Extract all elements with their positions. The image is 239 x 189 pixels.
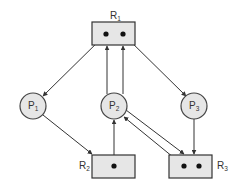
process-p3: P3 — [181, 93, 207, 119]
resource-r1: R1 — [92, 10, 135, 45]
resource-r3-instance-2 — [196, 163, 201, 168]
edge-p1-to-r2 — [43, 115, 92, 154]
resource-r3-label: R3 — [217, 160, 228, 172]
process-p1: P1 — [20, 93, 46, 119]
resource-r1-instance-1 — [103, 31, 108, 36]
resource-r1-instance-2 — [120, 31, 125, 36]
process-p2: P2 — [101, 93, 127, 119]
resource-r2: R2 — [79, 155, 135, 178]
resource-r1-label: R1 — [110, 10, 121, 22]
resource-r3: R3 — [169, 155, 228, 178]
edge-p2-to-r3 — [126, 110, 184, 154]
resource-r3-instance-1 — [181, 163, 186, 168]
resource-r2-label: R2 — [79, 160, 90, 172]
resource-r2-instance-1 — [111, 163, 116, 168]
resource-r1-box — [92, 22, 135, 45]
resource-allocation-graph: R1 P1 P2 P3 R2 R3 — [0, 0, 239, 189]
resource-r3-box — [169, 155, 212, 178]
